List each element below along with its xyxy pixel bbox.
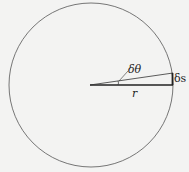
angle-arc (118, 81, 119, 85)
circle-diagram (0, 0, 189, 172)
diagram: δθ δs r (0, 0, 189, 172)
arc-length-label: δs (174, 73, 186, 84)
angle-label: δθ (128, 64, 141, 75)
radius-label: r (132, 88, 137, 99)
